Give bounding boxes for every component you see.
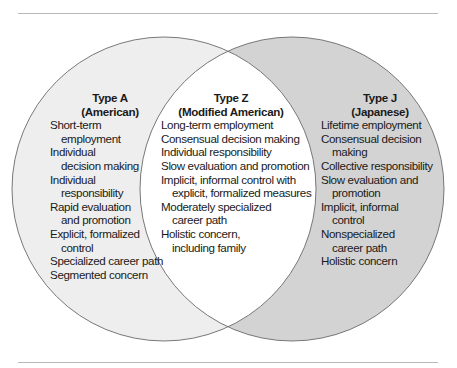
list-item: Rapid evaluationand promotion — [50, 200, 170, 227]
list-item: Holistic concern — [321, 254, 439, 268]
list-item: Collective responsibility — [321, 159, 439, 173]
set-type-a: Type A (American) Short-termemployment I… — [50, 91, 170, 281]
list-item: Implicit, informal control withexplicit,… — [161, 173, 301, 200]
set-subtitle: (American) — [50, 105, 170, 119]
set-subtitle: (Modified American) — [161, 105, 301, 119]
list-item: Holistic concern,including family — [161, 227, 301, 254]
list-item: Long-term employment — [161, 118, 301, 132]
list-item: Individual responsibility — [161, 145, 301, 159]
list-item: Short-termemployment — [50, 118, 170, 145]
set-title: Type J — [321, 91, 439, 105]
list-item: Slow evaluation andpromotion — [321, 173, 439, 200]
list-item: Segmented concern — [50, 268, 170, 282]
list-item: Individualdecision making — [50, 145, 170, 172]
set-subtitle: (Japanese) — [321, 105, 439, 119]
list-item: Lifetime employment — [321, 118, 439, 132]
list-item: Specialized career path — [50, 254, 170, 268]
list-item: Explicit, formalizedcontrol — [50, 227, 170, 254]
list-item: Slow evaluation and promotion — [161, 159, 301, 173]
list-item: Implicit, informalcontrol — [321, 200, 439, 227]
set-type-j: Type J (Japanese) Lifetime employment Co… — [321, 91, 439, 268]
list-item: Consensual decisionmaking — [321, 132, 439, 159]
list-item: Individualresponsibility — [50, 173, 170, 200]
set-type-z: Type Z (Modified American) Long-term emp… — [161, 91, 301, 254]
set-title: Type Z — [161, 91, 301, 105]
list-item: Moderately specializedcareer path — [161, 200, 301, 227]
set-title: Type A — [50, 91, 170, 105]
list-item: Nonspecializedcareer path — [321, 227, 439, 254]
list-item: Consensual decision making — [161, 132, 301, 146]
